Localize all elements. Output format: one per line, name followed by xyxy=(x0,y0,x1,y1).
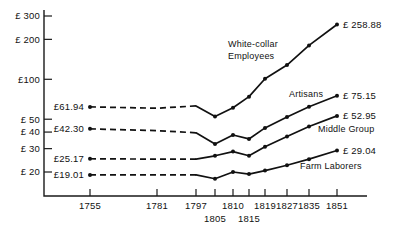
data-point xyxy=(213,177,217,181)
x-tick-label: 1851 xyxy=(326,200,348,211)
data-point xyxy=(231,106,235,110)
series-start-label-2: £25.17 xyxy=(54,153,84,164)
line-chart: £ 300£ 200£100£ 50£ 40£ 30£ 20 175517811… xyxy=(0,0,393,243)
series-line-1 xyxy=(196,96,337,144)
y-axis-ticks xyxy=(44,16,52,172)
series-start-label-0: £61.94 xyxy=(54,101,84,112)
x-tick-label: 1797 xyxy=(185,200,207,211)
series-name-label-0: Employees xyxy=(228,51,275,61)
series-start-label-1: £42.30 xyxy=(54,123,84,134)
data-point xyxy=(213,114,217,118)
y-tick-label: £ 40 xyxy=(21,126,40,137)
y-tick-label: £ 20 xyxy=(21,166,40,177)
x-tick-label: 1827 xyxy=(276,200,298,211)
series-name-label-1: Artisans xyxy=(289,89,323,99)
data-point xyxy=(285,63,289,67)
y-tick-label: £100 xyxy=(18,74,40,85)
y-tick-label: £ 50 xyxy=(21,114,40,125)
data-point xyxy=(247,172,251,176)
data-point xyxy=(263,145,267,149)
y-tick-label: £ 300 xyxy=(15,10,40,21)
data-point xyxy=(285,135,289,139)
data-point xyxy=(335,114,339,118)
x-tick-label: 1781 xyxy=(146,200,168,211)
chart-canvas: £ 300£ 200£100£ 50£ 40£ 30£ 20 175517811… xyxy=(0,0,393,243)
data-point xyxy=(247,95,251,99)
data-point xyxy=(285,163,289,167)
data-point xyxy=(231,133,235,137)
data-point xyxy=(335,94,339,98)
data-point xyxy=(88,173,92,177)
data-point xyxy=(213,154,217,158)
series-name-label-0: White-collar xyxy=(228,39,278,49)
data-point xyxy=(231,150,235,154)
data-point xyxy=(263,77,267,81)
x-axis-ticks xyxy=(90,189,337,196)
series-name-label-2: Middle Group xyxy=(318,124,374,134)
data-point xyxy=(213,142,217,146)
series-end-label-3: £ 29.04 xyxy=(343,145,376,156)
data-point xyxy=(335,22,339,26)
series-line-2 xyxy=(196,116,337,159)
data-point xyxy=(307,105,311,109)
x-tick-label: 1810 xyxy=(222,200,244,211)
data-point xyxy=(307,125,311,129)
data-point xyxy=(88,105,92,109)
data-point xyxy=(88,157,92,161)
series-start-labels: £61.94£42.30£25.17£19.01 xyxy=(54,101,84,180)
series-end-label-1: £ 75.15 xyxy=(343,90,376,101)
x-tick-label: 1815 xyxy=(238,213,260,224)
data-point xyxy=(285,115,289,119)
series-start-label-3: £19.01 xyxy=(54,169,84,180)
series-name-label-3: Farm Laborers xyxy=(300,161,362,171)
data-point xyxy=(247,154,251,158)
series-end-labels: £ 258.88£ 75.15£ 52.95£ 29.04 xyxy=(343,19,382,156)
y-axis-labels: £ 300£ 200£100£ 50£ 40£ 30£ 20 xyxy=(15,10,40,177)
series-line-dashed-0 xyxy=(90,106,196,108)
data-point xyxy=(88,127,92,131)
x-tick-label: 1819 xyxy=(254,200,276,211)
x-tick-label: 1835 xyxy=(298,200,320,211)
series-markers xyxy=(88,22,339,180)
y-tick-label: £ 30 xyxy=(21,143,40,154)
data-point xyxy=(247,137,251,141)
x-tick-label: 1805 xyxy=(204,213,226,224)
series-end-label-0: £ 258.88 xyxy=(343,19,382,30)
data-point xyxy=(263,126,267,130)
x-tick-label: 1755 xyxy=(79,200,101,211)
series-line-dashed-1 xyxy=(90,129,196,133)
data-point xyxy=(231,170,235,174)
x-axis-labels: 1755178117971805181018151819182718351851 xyxy=(79,200,348,224)
y-tick-label: £ 200 xyxy=(15,34,40,45)
data-point xyxy=(263,169,267,173)
data-point xyxy=(307,43,311,47)
series-end-label-2: £ 52.95 xyxy=(343,110,376,121)
data-point xyxy=(335,149,339,153)
